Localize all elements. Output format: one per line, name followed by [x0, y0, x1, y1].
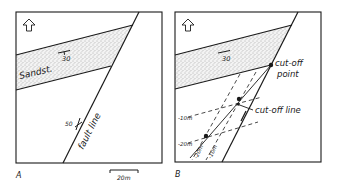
- bed-contour-label-minus20: -20m: [178, 141, 192, 147]
- panel-b: 30 cut-off point cut-off line -10m -20m …: [175, 12, 321, 179]
- intersection-point-minus20: [204, 134, 208, 138]
- scale-bar: [110, 170, 138, 173]
- bed-contour-minus20: [188, 122, 258, 143]
- sandstone-bed-b: [175, 25, 292, 89]
- intersection-point-minus10: [237, 97, 241, 101]
- panel-label-b: B: [175, 170, 181, 179]
- cutoff-point-label-2: point: [276, 69, 299, 79]
- panel-label-a: A: [15, 171, 21, 180]
- bed-contour-label-minus10: -10m: [178, 115, 192, 121]
- panel-a: 30 Sandst. 50 fault line 20m A: [15, 12, 162, 181]
- bedding-dip-label: 30: [62, 55, 70, 63]
- bed-contour-minus10: [188, 97, 262, 117]
- fault-contour-label-minus10: -10m: [207, 144, 219, 160]
- cutoff-point: [269, 63, 273, 67]
- map-frame-b: [175, 12, 321, 162]
- fault-contour-label-minus20: -20m: [193, 144, 205, 160]
- scale-bar-label: 20m: [117, 174, 131, 181]
- cutoff-line-label: cut-off line: [255, 105, 301, 115]
- fault-dip-label: 50: [65, 120, 73, 127]
- fault-line-label: fault line: [76, 111, 103, 151]
- bedding-dip-label-b: 30: [222, 55, 230, 63]
- cutoff-point-label-1: cut-off: [275, 58, 304, 68]
- figure-canvas: 30 Sandst. 50 fault line 20m A 30: [0, 0, 338, 188]
- north-arrow-icon: [182, 19, 194, 31]
- north-arrow-icon: [23, 19, 35, 31]
